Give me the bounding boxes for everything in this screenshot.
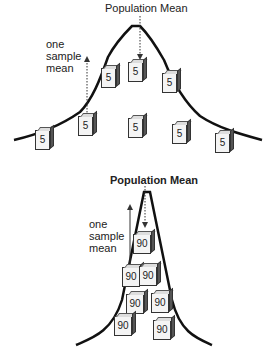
top-population-mean-label: Population Mean xyxy=(105,2,188,14)
bottom-population-mean-label: Population Mean xyxy=(110,174,198,186)
sample-box: 90 xyxy=(139,266,157,286)
sample-box: 5 xyxy=(172,124,187,144)
sample-box: 90 xyxy=(133,234,151,254)
top-sample-mean-label: one sample mean xyxy=(46,38,86,74)
sample-box: 90 xyxy=(114,316,132,336)
sample-box: 90 xyxy=(151,293,169,313)
sample-box: 90 xyxy=(153,320,171,340)
sample-box: 5 xyxy=(128,62,143,82)
sample-box: 5 xyxy=(215,133,230,153)
sample-box: 5 xyxy=(78,116,93,136)
bottom-sample-mean-label: one sample mean xyxy=(89,218,129,254)
sample-box: 5 xyxy=(162,73,177,93)
sample-box: 5 xyxy=(35,130,50,150)
sample-box: 5 xyxy=(101,68,116,88)
sample-box: 5 xyxy=(128,118,143,138)
sample-box: 90 xyxy=(122,267,140,287)
